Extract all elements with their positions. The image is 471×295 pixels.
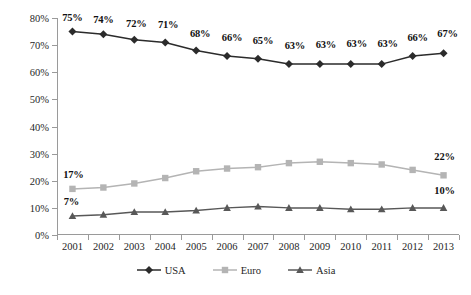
data-point-label: 68%: [190, 28, 210, 39]
y-axis-tick: [52, 45, 57, 46]
plot-area: 0%10%20%30%40%50%60%70%80% 75%74%72%71%6…: [57, 18, 459, 235]
y-axis-tick: [52, 72, 57, 73]
data-point-marker: [131, 180, 137, 186]
y-axis-tick-label: 30%: [30, 148, 49, 159]
x-axis-tick: [366, 235, 367, 240]
data-point-label: 65%: [253, 35, 273, 46]
x-axis-tick-label: 2002: [93, 241, 114, 252]
y-axis-tick-label: 10%: [30, 202, 49, 213]
series-layer: [57, 18, 459, 235]
data-point-marker: [347, 60, 355, 68]
x-axis-tick-label: 2009: [309, 241, 330, 252]
x-axis-tick: [304, 235, 305, 240]
legend-item-asia[interactable]: Asia: [287, 264, 335, 276]
data-point-marker: [69, 186, 75, 192]
y-axis-tick-label: 60%: [30, 67, 49, 78]
x-axis-tick-label: 2013: [433, 241, 454, 252]
x-axis-tick: [335, 235, 336, 240]
x-axis-tick: [57, 235, 58, 240]
x-axis-tick: [243, 235, 244, 240]
y-axis-tick-label: 50%: [30, 94, 49, 105]
legend-item-euro[interactable]: Euro: [212, 264, 261, 276]
data-point-label: 22%: [434, 151, 454, 162]
data-point-marker: [100, 184, 106, 190]
data-point-marker: [317, 159, 323, 165]
x-axis-tick: [212, 235, 213, 240]
data-point-marker: [68, 28, 76, 36]
x-axis-tick: [181, 235, 182, 240]
data-point-marker: [221, 267, 227, 273]
y-axis-tick: [52, 127, 57, 128]
x-axis-tick-label: 2004: [155, 241, 176, 252]
legend-label: Euro: [241, 265, 261, 276]
legend-marker-square-icon: [212, 264, 238, 276]
legend-label: USA: [165, 265, 186, 276]
legend-marker-diamond-icon: [136, 264, 162, 276]
data-point-marker: [162, 175, 168, 181]
data-point-label: 17%: [63, 169, 83, 180]
x-axis-tick-label: 2003: [124, 241, 145, 252]
data-point-label: 67%: [437, 28, 457, 39]
data-point-marker: [348, 160, 354, 166]
x-axis-tick-label: 2011: [371, 241, 392, 252]
data-point-label: 63%: [316, 39, 336, 50]
y-axis-tick: [52, 99, 57, 100]
data-point-marker: [223, 52, 231, 60]
x-axis-tick-label: 2001: [62, 241, 83, 252]
data-point-marker: [285, 60, 293, 68]
chart-legend: USAEuroAsia: [0, 264, 471, 276]
data-point-label: 10%: [434, 185, 454, 196]
legend-item-usa[interactable]: USA: [136, 264, 186, 276]
data-point-marker: [316, 60, 324, 68]
x-axis-tick: [273, 235, 274, 240]
y-axis-tick: [52, 18, 57, 19]
x-axis-labels: 2001200220032004200520062007200820092010…: [57, 241, 459, 259]
data-point-label: 72%: [126, 18, 146, 29]
series-euro: [69, 159, 446, 193]
data-point-label: 63%: [377, 38, 397, 49]
data-point-marker: [224, 165, 230, 171]
x-axis-tick: [119, 235, 120, 240]
y-axis-tick-label: 0%: [35, 230, 49, 241]
data-point-label: 63%: [285, 40, 305, 51]
data-point-label: 66%: [222, 32, 242, 43]
data-point-marker: [161, 38, 169, 46]
data-point-marker: [255, 164, 261, 170]
legend-marker-triangle-icon: [287, 264, 313, 276]
y-axis-tick: [52, 208, 57, 209]
legend-label: Asia: [316, 265, 335, 276]
data-point-marker: [192, 47, 200, 55]
data-point-marker: [286, 160, 292, 166]
data-point-marker: [378, 161, 384, 167]
y-axis-tick: [52, 154, 57, 155]
y-axis-tick-label: 80%: [30, 13, 49, 24]
x-axis-tick-label: 2012: [402, 241, 423, 252]
data-point-marker: [409, 167, 415, 173]
data-point-label: 74%: [93, 14, 113, 25]
data-point-marker: [130, 36, 138, 44]
y-axis-tick-label: 70%: [30, 40, 49, 51]
data-point-marker: [254, 55, 262, 63]
x-axis-tick: [88, 235, 89, 240]
x-axis-tick: [397, 235, 398, 240]
data-point-marker: [440, 49, 448, 57]
y-axis-tick: [52, 181, 57, 182]
x-axis-tick: [428, 235, 429, 240]
x-axis-tick: [150, 235, 151, 240]
y-axis-tick-label: 20%: [30, 175, 49, 186]
data-point-label: 75%: [62, 12, 82, 23]
data-point-marker: [193, 168, 199, 174]
line-chart: 0%10%20%30%40%50%60%70%80% 75%74%72%71%6…: [0, 0, 471, 295]
x-axis-tick: [459, 235, 460, 240]
x-axis-tick-label: 2010: [340, 241, 361, 252]
x-axis-tick-label: 2005: [186, 241, 207, 252]
data-point-label: 63%: [347, 38, 367, 49]
data-point-label: 71%: [158, 19, 178, 30]
data-point-marker: [409, 52, 417, 60]
data-point-marker: [145, 266, 153, 274]
series-asia: [69, 203, 448, 219]
y-axis-tick-label: 40%: [30, 121, 49, 132]
y-axis-tick: [52, 235, 57, 236]
data-point-marker: [440, 172, 446, 178]
data-point-label: 66%: [407, 32, 427, 43]
